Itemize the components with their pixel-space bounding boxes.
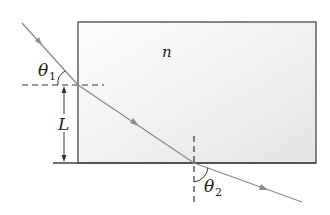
theta1-arc (58, 71, 65, 85)
label-theta2: θ (204, 176, 214, 196)
label-n: n (162, 43, 172, 61)
label-theta1: θ (38, 60, 48, 80)
label-theta2-sub: 2 (215, 186, 222, 199)
arrow-up-icon (62, 86, 67, 93)
arrow-down-icon (62, 155, 67, 162)
slab (78, 22, 316, 163)
refraction-diagram: L n θ 1 θ 2 (0, 0, 330, 215)
label-L: L (57, 114, 69, 134)
emergent-arrow-icon (259, 184, 268, 190)
label-theta1-sub: 1 (49, 70, 56, 83)
